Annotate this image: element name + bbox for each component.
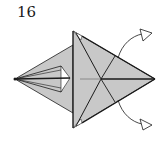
arrow-head-icon [140, 119, 152, 130]
fold-arrow-up [118, 29, 152, 58]
center-body [73, 31, 155, 128]
left-flap [14, 45, 74, 113]
arrow-head-icon [140, 29, 152, 41]
fold-arrow-down [118, 100, 152, 130]
origami-diagram [0, 0, 163, 144]
